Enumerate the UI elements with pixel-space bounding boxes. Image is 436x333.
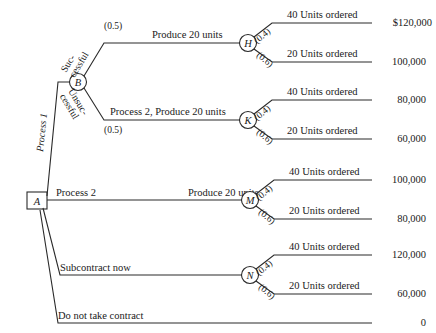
payoff-h-20: 100,000 (392, 56, 426, 67)
label-k-40: 40 Units ordered (287, 86, 358, 97)
prob-successful: (0.5) (104, 21, 122, 32)
prob-n-20: (0.6) (256, 282, 277, 302)
branch-do-not-take-contract-label: Do not take contract (58, 310, 144, 321)
branch-process-1-label-group: Process 1 (34, 112, 49, 153)
payoff-k-20: 60,000 (397, 133, 426, 144)
branch-n-40[interactable] (256, 255, 372, 269)
node-h-label: H (243, 38, 253, 49)
payoff-n-20: 60,000 (397, 288, 426, 299)
node-m-label: M (245, 195, 256, 206)
payoff-h-40: $120,000 (393, 17, 432, 28)
prob-k-20-group: (0.6) (254, 127, 275, 147)
label-n-20: 20 Units ordered (289, 280, 360, 291)
node-a-label: A (33, 196, 41, 207)
prob-k-20: (0.6) (254, 127, 275, 147)
label-h-40: 40 Units ordered (287, 9, 358, 20)
label-k-20: 20 Units ordered (287, 125, 358, 136)
branch-process-2-label: Process 2 (56, 187, 96, 198)
prob-n-20-group: (0.6) (256, 282, 277, 302)
branch-h-40[interactable] (254, 23, 372, 37)
decision-tree-svg: A Process 1 B Suc- cessful (0.5) Produce… (0, 0, 436, 333)
branch-successful[interactable] (84, 43, 240, 76)
payoff-n-40: 120,000 (392, 249, 426, 260)
payoff-m-40: 100,000 (392, 174, 426, 185)
prob-h-20-group: (0.6) (254, 50, 275, 70)
prob-m-20-group: (0.6) (256, 207, 277, 227)
label-process2-produce-20: Process 2, Produce 20 units (110, 106, 226, 117)
payoff-do-not-take-contract: 0 (421, 317, 426, 328)
label-h-20: 20 Units ordered (287, 48, 358, 59)
label-n-40: 40 Units ordered (289, 241, 360, 252)
label-produce-20-top: Produce 20 units (152, 29, 223, 40)
label-m-40: 40 Units ordered (289, 166, 360, 177)
prob-unsuccessful: (0.5) (104, 125, 122, 136)
branch-process-1-label: Process 1 (34, 112, 49, 153)
node-n-label: N (245, 270, 254, 281)
branch-unsuccessful-label-group: Unsuc- cessful (58, 86, 91, 122)
branch-k-40[interactable] (254, 100, 372, 114)
decision-tree-diagram: A Process 1 B Suc- cessful (0.5) Produce… (0, 0, 436, 333)
branch-subcontract-now-label: Subcontract now (60, 262, 131, 273)
payoff-m-20: 80,000 (397, 213, 426, 224)
node-k-label: K (243, 115, 252, 126)
payoff-k-40: 80,000 (397, 94, 426, 105)
label-m-20: 20 Units ordered (289, 205, 360, 216)
prob-m-20: (0.6) (256, 207, 277, 227)
prob-h-20: (0.6) (254, 50, 275, 70)
branch-m-40[interactable] (256, 180, 372, 194)
